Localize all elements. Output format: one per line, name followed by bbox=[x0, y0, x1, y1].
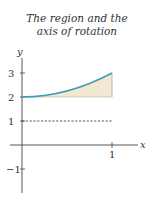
y-tick-label-neg1: −1 bbox=[6, 164, 21, 175]
y-tick-label-2: 2 bbox=[8, 92, 14, 103]
y-tick-label-3: 3 bbox=[8, 68, 14, 79]
x-tick-label-1: 1 bbox=[109, 149, 115, 160]
x-axis-label: x bbox=[140, 139, 146, 150]
plot: y x 3 2 1 −1 1 bbox=[0, 0, 154, 203]
y-axis-label: y bbox=[16, 46, 23, 57]
shaded-region bbox=[22, 73, 112, 97]
y-tick-label-1: 1 bbox=[8, 116, 14, 127]
